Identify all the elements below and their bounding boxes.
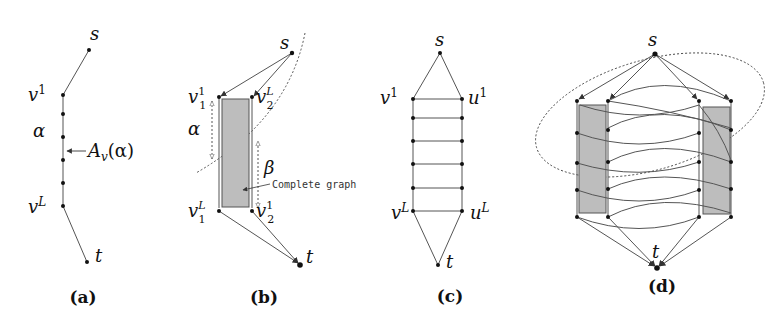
- node: [411, 139, 415, 143]
- label-s: s: [280, 32, 289, 53]
- label-t: t: [95, 245, 103, 266]
- node: [575, 161, 579, 165]
- node: [606, 160, 610, 164]
- arc: [608, 86, 731, 102]
- node: [697, 131, 701, 135]
- edge-s-v1: [63, 50, 89, 95]
- label-alpha: α: [188, 118, 200, 139]
- label-v1: v1: [380, 86, 398, 108]
- node: [460, 162, 464, 166]
- node-v1: [61, 93, 65, 97]
- node: [460, 139, 464, 143]
- label-v21: v12: [256, 199, 274, 226]
- node: [61, 181, 65, 185]
- label-u1: u1: [468, 86, 487, 108]
- node: [697, 160, 701, 164]
- node: [61, 112, 65, 116]
- node: [575, 99, 579, 103]
- edge-vL-t: [63, 206, 87, 262]
- label-v1L: vL1: [188, 199, 205, 226]
- node-v1: [411, 97, 415, 101]
- node: [61, 158, 65, 162]
- node-vL: [61, 204, 65, 208]
- edge-vL-t: [413, 211, 438, 265]
- node: [575, 215, 579, 219]
- node-t: [85, 260, 89, 264]
- panel-b: s v11 vL2 α β Complete graph vL1 v12 t (…: [188, 32, 356, 307]
- label-v1: v1: [28, 83, 46, 105]
- node-t: [297, 262, 303, 268]
- node: [606, 99, 610, 103]
- edge: [660, 217, 731, 266]
- label-t: t: [446, 251, 454, 272]
- node: [460, 186, 464, 190]
- node-v21: [250, 209, 254, 213]
- label-v2L: vL2: [256, 85, 273, 112]
- label-t: t: [306, 246, 314, 267]
- panel-d: s t (d): [521, 29, 778, 296]
- label-vL: vL: [28, 195, 46, 217]
- label-alpha: α: [33, 120, 45, 141]
- node: [460, 116, 464, 120]
- node-u1: [460, 97, 464, 101]
- label-A-v-alpha: Av(α): [86, 140, 134, 164]
- caption-a: (a): [69, 287, 96, 307]
- edge: [655, 54, 729, 99]
- label-beta: β: [263, 157, 274, 178]
- node: [729, 160, 733, 164]
- complete-graph-block: [222, 99, 249, 207]
- node: [411, 162, 415, 166]
- label-complete-graph: Complete graph: [272, 179, 356, 190]
- label-s: s: [435, 29, 444, 50]
- node: [697, 99, 701, 103]
- node: [729, 215, 733, 219]
- node: [606, 128, 610, 132]
- label-t: t: [652, 241, 660, 262]
- node-uL: [460, 209, 464, 213]
- node: [411, 186, 415, 190]
- node-t: [436, 263, 440, 267]
- edge: [655, 54, 697, 99]
- node: [411, 116, 415, 120]
- label-uL: uL: [470, 201, 490, 223]
- label-vL: vL: [391, 201, 409, 223]
- node: [729, 187, 733, 191]
- caption-c: (c): [437, 286, 463, 306]
- edge-s-u1: [440, 53, 462, 99]
- ladder-nodes: [411, 51, 464, 267]
- node-s: [290, 51, 294, 55]
- node: [575, 188, 579, 192]
- node: [697, 188, 701, 192]
- node-s: [652, 51, 657, 56]
- node: [61, 135, 65, 139]
- label-v11: v11: [188, 85, 206, 112]
- node-v11: [217, 95, 221, 99]
- caption-b: (b): [250, 287, 278, 307]
- node: [729, 99, 733, 103]
- node: [697, 215, 701, 219]
- node-vL: [411, 209, 415, 213]
- panel-a: s v1 α Av(α) vL t (a): [28, 23, 134, 307]
- node-v2L: [250, 95, 254, 99]
- node: [729, 128, 733, 132]
- edge-s-v1: [413, 53, 440, 99]
- node: [575, 131, 579, 135]
- label-s: s: [648, 29, 657, 50]
- caption-d: (d): [648, 276, 676, 296]
- panel-c: s v1 u1 vL uL t (c): [380, 29, 490, 306]
- ladder-rungs: [413, 99, 462, 211]
- node-s: [438, 51, 442, 55]
- node-t: [654, 265, 660, 271]
- node-s: [87, 48, 91, 52]
- label-s: s: [90, 23, 99, 44]
- node: [606, 187, 610, 191]
- node: [606, 215, 610, 219]
- path-nodes: [61, 48, 91, 264]
- figure-canvas: s v1 α Av(α) vL t (a) s v11 vL2 α β Comp…: [0, 0, 784, 327]
- edge: [659, 217, 699, 266]
- node-v1L: [217, 209, 221, 213]
- arc: [577, 217, 699, 229]
